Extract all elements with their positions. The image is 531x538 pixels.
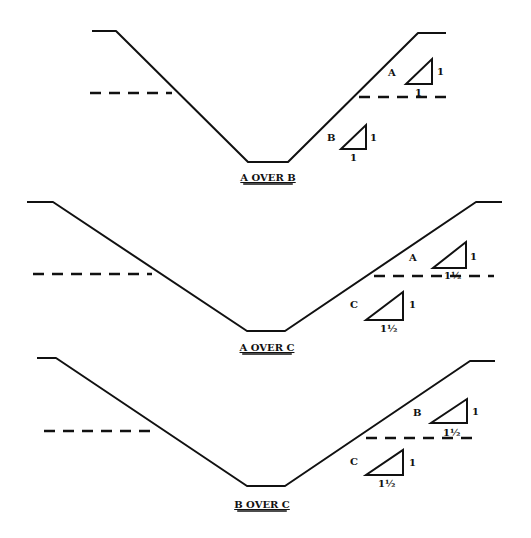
- run-value: 1: [415, 87, 422, 98]
- rise-value: 1: [437, 66, 444, 77]
- slope-label: B: [413, 407, 421, 418]
- slope-upper-a: A11: [387, 59, 444, 98]
- slope-label: B: [327, 132, 335, 143]
- slope-upper-b: B11½: [413, 399, 479, 438]
- slope-label: C: [350, 299, 358, 310]
- rise-value: 1: [470, 251, 477, 262]
- diagram-caption: B OVER C: [234, 499, 290, 510]
- slope-ratio-triangle-icon: [431, 399, 467, 423]
- channel-diagram-2: A11½C11½A OVER C: [27, 202, 502, 354]
- channel-profile: [37, 358, 495, 486]
- run-value: 1½: [380, 323, 397, 334]
- slope-diagrams-canvas: A11B11A OVER BA11½C11½A OVER CB11½C11½B …: [0, 0, 531, 538]
- rise-value: 1: [472, 406, 479, 417]
- run-value: 1½: [444, 270, 461, 281]
- run-value: 1½: [378, 478, 395, 489]
- slope-label: A: [387, 67, 396, 78]
- channel-diagram-3: B11½C11½B OVER C: [37, 358, 495, 511]
- slope-lower-c: C11½: [350, 292, 416, 334]
- run-value: 1: [350, 152, 357, 163]
- rise-value: 1: [409, 299, 416, 310]
- channel-diagram-1: A11B11A OVER B: [90, 31, 450, 184]
- slope-ratio-triangle-icon: [406, 59, 432, 84]
- slope-label: C: [350, 456, 358, 467]
- slope-lower-c: C11½: [350, 450, 416, 489]
- diagram-caption: A OVER C: [239, 342, 295, 353]
- channel-profile: [92, 31, 446, 162]
- slope-ratio-triangle-icon: [366, 292, 403, 320]
- slope-ratio-triangle-icon: [366, 450, 403, 475]
- diagram-caption: A OVER B: [239, 172, 295, 183]
- rise-value: 1: [409, 457, 416, 468]
- slope-lower-b: B11: [327, 125, 377, 163]
- channel-profile: [27, 202, 502, 331]
- run-value: 1½: [443, 427, 460, 438]
- slope-ratio-triangle-icon: [433, 242, 466, 268]
- slope-ratio-triangle-icon: [341, 125, 366, 149]
- rise-value: 1: [370, 132, 377, 143]
- slope-label: A: [408, 252, 417, 263]
